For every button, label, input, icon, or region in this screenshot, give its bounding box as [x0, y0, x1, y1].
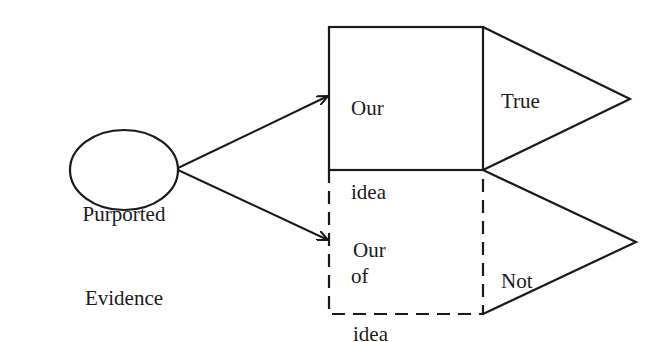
arrow-to-truth — [178, 96, 328, 168]
not-true-box-line2: idea — [353, 320, 436, 342]
not-true-box-line1: Our — [353, 236, 436, 264]
evidence-label: Purported Evidence — [72, 144, 176, 340]
arrow-to-not-true — [178, 170, 328, 240]
evidence-label-line1: Purported — [72, 200, 176, 228]
evidence-label-line2: Evidence — [72, 284, 176, 312]
truth-box-line1: Our — [351, 94, 409, 122]
outcome-not-true-label: Not True — [501, 211, 540, 342]
outcome-true-label: True — [501, 87, 540, 115]
outcome-not-true-line1: Not — [501, 267, 540, 295]
not-true-box-label: Our idea of “not true” — [353, 180, 436, 342]
